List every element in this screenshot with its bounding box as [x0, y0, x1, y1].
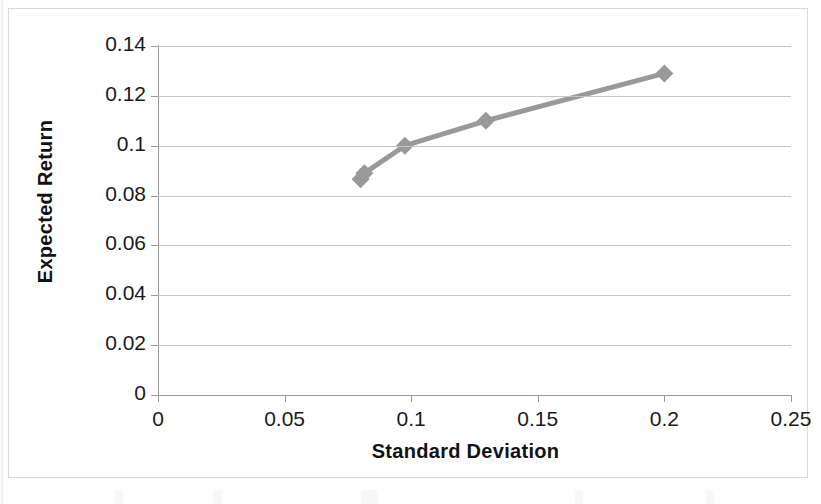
scan-edge-artifact — [1, 0, 3, 504]
gridline-y — [158, 46, 791, 47]
y-axis-tick-label: 0 — [69, 381, 146, 405]
x-axis-tick-label: 0.15 — [493, 407, 583, 431]
y-axis-title: Expected Return — [34, 62, 57, 342]
y-axis-tick — [151, 245, 158, 246]
x-axis-tick-label: 0 — [113, 407, 203, 431]
y-axis-tick — [151, 295, 158, 296]
y-axis-tick — [151, 345, 158, 346]
y-axis-tick-label: 0.08 — [69, 182, 146, 206]
gridline-y — [158, 146, 791, 147]
x-axis-tick-label: 0.25 — [746, 407, 821, 431]
y-axis-tick-label: 0.04 — [69, 281, 146, 305]
gridline-y — [158, 395, 791, 396]
y-axis-tick-label: 0.14 — [69, 32, 146, 56]
scan-speckle-artifact — [0, 490, 821, 504]
chart-frame: 00.020.040.060.080.10.120.1400.050.10.15… — [8, 8, 808, 478]
y-axis-tick-label: 0.1 — [69, 132, 146, 156]
data-point-marker — [655, 64, 673, 82]
x-axis-tick-label: 0.05 — [240, 407, 330, 431]
y-axis-tick — [151, 96, 158, 97]
plot-area — [158, 46, 791, 395]
gridline-y — [158, 345, 791, 346]
y-axis-tick-label: 0.02 — [69, 331, 146, 355]
y-axis-tick — [151, 395, 158, 396]
y-axis-tick-label: 0.06 — [69, 231, 146, 255]
series-line — [361, 73, 665, 179]
x-axis-tick — [791, 395, 792, 402]
y-axis-tick — [151, 146, 158, 147]
x-axis-tick-label: 0.1 — [366, 407, 456, 431]
gridline-y — [158, 96, 791, 97]
x-axis-tick — [664, 395, 665, 402]
x-axis-tick — [158, 395, 159, 402]
x-axis-title: Standard Deviation — [149, 440, 782, 463]
scanned-page: 00.020.040.060.080.10.120.1400.050.10.15… — [0, 0, 821, 504]
x-axis-tick — [538, 395, 539, 402]
gridline-y — [158, 196, 791, 197]
data-point-marker — [477, 112, 495, 130]
x-axis-tick — [285, 395, 286, 402]
y-axis-tick — [151, 196, 158, 197]
x-axis-tick-label: 0.2 — [619, 407, 709, 431]
y-axis-tick-label: 0.12 — [69, 82, 146, 106]
gridline-y — [158, 245, 791, 246]
series-plot — [158, 46, 791, 395]
y-axis-tick — [151, 46, 158, 47]
x-axis-tick — [411, 395, 412, 402]
gridline-y — [158, 295, 791, 296]
